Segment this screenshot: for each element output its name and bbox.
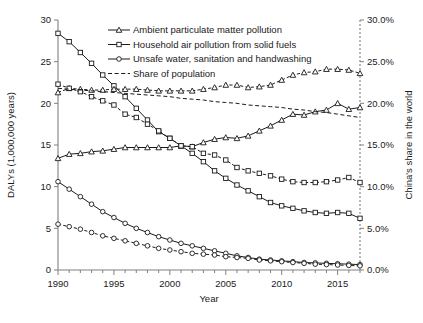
legend-item[interactable]: Ambient particulate matter pollution <box>108 24 282 35</box>
data-point-marker-square <box>89 61 93 65</box>
data-point-marker-circle <box>246 256 251 261</box>
x-tick-label: 1995 <box>103 278 124 289</box>
data-point-marker-triangle <box>290 72 296 77</box>
data-point-marker-triangle <box>357 105 363 110</box>
legend-label: Household air pollution from solid fuels <box>133 39 296 50</box>
data-point-marker-square <box>78 50 82 54</box>
y-tick-label-left: 25 <box>40 56 51 67</box>
data-point-marker-square <box>117 42 121 46</box>
data-point-marker-square <box>291 179 295 183</box>
y-tick-label-left: 30 <box>40 14 51 25</box>
data-point-marker-square <box>280 177 284 181</box>
data-point-marker-square <box>235 165 239 169</box>
data-point-marker-triangle <box>279 77 285 82</box>
data-point-marker-square <box>56 82 60 86</box>
data-point-marker-square <box>347 211 351 215</box>
x-tick-label: 2000 <box>159 278 180 289</box>
chart-legend: Ambient particulate matter pollutionHous… <box>108 24 312 79</box>
data-point-marker-circle <box>201 252 206 257</box>
data-point-marker-circle <box>156 234 161 239</box>
chart-figure: 0510152025300.0%5.0%10.0%15.0%20.0%25.0%… <box>0 0 423 323</box>
data-point-marker-square <box>335 178 339 182</box>
data-point-marker-square <box>212 153 216 157</box>
series-1-triangle-solid-left <box>55 101 363 161</box>
data-point-marker-square <box>335 210 339 214</box>
data-point-marker-circle <box>302 261 307 266</box>
y-tick-label-left: 15 <box>40 139 51 150</box>
data-point-marker-circle <box>235 255 240 260</box>
data-point-marker-square <box>101 99 105 103</box>
data-point-marker-square <box>201 159 205 163</box>
data-point-marker-square <box>302 180 306 184</box>
x-tick-label: 1990 <box>47 278 68 289</box>
data-point-marker-square <box>224 176 228 180</box>
x-tick-label: 2015 <box>327 278 348 289</box>
legend-item[interactable]: Unsafe water, sanitation and handwashing <box>108 53 312 64</box>
legend-label: Share of population <box>133 68 215 79</box>
data-point-marker-circle <box>212 253 217 258</box>
data-point-marker-square <box>280 204 284 208</box>
data-point-marker-triangle <box>335 101 341 106</box>
data-point-marker-square <box>291 206 295 210</box>
y-tick-label-right: 5.0% <box>367 223 389 234</box>
data-point-marker-square <box>145 122 149 126</box>
data-point-marker-square <box>358 180 362 184</box>
data-point-marker-triangle <box>245 133 251 138</box>
y-axis-title-left: DALYs (1,000,000 years) <box>5 92 16 198</box>
data-point-marker-triangle <box>268 82 274 87</box>
y-tick-label-right: 10.0% <box>367 181 394 192</box>
data-point-marker-circle <box>89 230 94 235</box>
data-point-marker-square <box>212 169 216 173</box>
legend-item[interactable]: Share of population <box>108 68 215 79</box>
legend-label: Ambient particulate matter pollution <box>133 24 282 35</box>
data-point-marker-square <box>156 129 160 133</box>
legend-item[interactable]: Household air pollution from solid fuels <box>108 39 296 50</box>
data-point-marker-circle <box>179 241 184 246</box>
data-point-marker-circle <box>168 248 173 253</box>
data-point-marker-circle <box>67 224 72 229</box>
data-point-marker-square <box>246 169 250 173</box>
data-point-marker-circle <box>358 264 363 269</box>
x-tick-label: 2010 <box>271 278 292 289</box>
y-axis-title-right: China's share in the world <box>403 90 414 199</box>
data-point-marker-square <box>257 194 261 198</box>
data-point-marker-square <box>101 73 105 77</box>
data-point-marker-square <box>313 210 317 214</box>
data-point-marker-square <box>56 31 60 35</box>
y-tick-label-left: 20 <box>40 98 51 109</box>
data-point-marker-square <box>347 175 351 179</box>
data-point-marker-square <box>67 39 71 43</box>
data-point-marker-circle <box>134 226 139 231</box>
data-point-marker-circle <box>324 262 329 267</box>
data-point-marker-circle <box>335 263 340 268</box>
data-point-marker-square <box>313 180 317 184</box>
data-point-marker-circle <box>78 227 83 232</box>
data-point-marker-circle <box>201 246 206 251</box>
series-5-square-dashed-right <box>56 82 362 185</box>
y-tick-label-left: 5 <box>46 223 51 234</box>
data-point-marker-square <box>268 174 272 178</box>
data-point-marker-triangle <box>223 82 229 87</box>
data-point-marker-circle <box>100 209 105 214</box>
data-point-marker-circle <box>112 236 117 241</box>
data-point-marker-circle <box>313 262 318 267</box>
data-point-marker-square <box>324 179 328 183</box>
data-point-marker-circle <box>156 246 161 251</box>
legend-marker <box>117 42 121 46</box>
data-point-marker-circle <box>134 241 139 246</box>
data-point-marker-circle <box>112 215 117 220</box>
data-point-marker-circle <box>291 260 296 265</box>
legend-marker <box>117 57 122 62</box>
data-point-marker-triangle <box>279 117 285 122</box>
data-point-marker-circle <box>123 239 128 244</box>
data-point-marker-circle <box>123 221 128 226</box>
data-point-marker-circle <box>179 249 184 254</box>
data-point-marker-square <box>235 183 239 187</box>
data-point-marker-square <box>190 144 194 148</box>
y-tick-label-right: 25.0% <box>367 56 394 67</box>
y-tick-label-right: 15.0% <box>367 139 394 150</box>
data-point-marker-circle <box>117 57 122 62</box>
data-point-marker-triangle <box>257 128 263 133</box>
data-point-marker-triangle <box>301 70 307 75</box>
data-point-marker-circle <box>67 187 72 192</box>
